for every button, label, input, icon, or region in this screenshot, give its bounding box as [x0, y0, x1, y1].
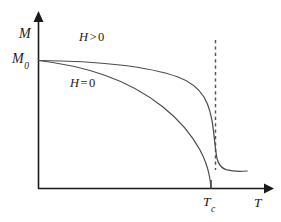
y-axis-label: M	[19, 27, 31, 41]
m0-subscript: 0	[24, 61, 29, 71]
plot-canvas	[0, 0, 281, 222]
y-axis-value-label-m0: M0	[12, 52, 28, 69]
x-axis-tick-label-tc: Tc	[203, 195, 215, 212]
magnetization-temperature-figure: M M0 Tc T H>0 H=0	[0, 0, 281, 222]
curve-label-h-equals-zero: H=0	[70, 77, 96, 90]
x-axis-arrow-icon	[264, 184, 274, 194]
tc-subscript: c	[211, 204, 215, 214]
tc-base: T	[203, 194, 211, 209]
x-axis-label: T	[254, 196, 262, 210]
h-pos-operator: >	[88, 30, 97, 44]
curve-label-h-greater-than-zero: H>0	[79, 31, 105, 44]
h-pos-value: 0	[98, 30, 105, 44]
y-axis-arrow-icon	[34, 11, 44, 22]
h-zero-value: 0	[89, 76, 96, 90]
h-zero-operator: =	[79, 76, 88, 90]
m0-base: M	[12, 51, 24, 66]
